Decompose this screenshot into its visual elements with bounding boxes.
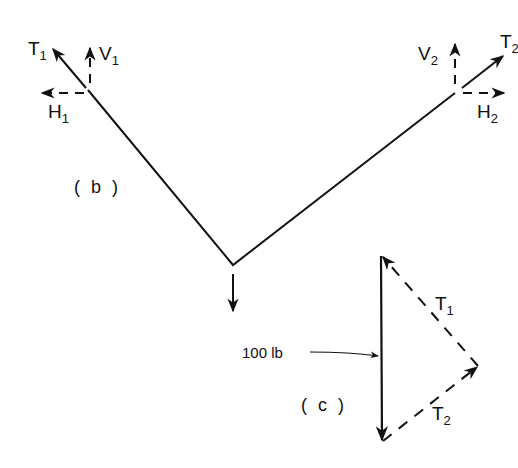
weight-leader-line xyxy=(310,352,378,356)
t1-arrow xyxy=(53,49,86,88)
weight-label: 100 lb xyxy=(242,344,283,361)
h1-label: H1 xyxy=(48,101,69,126)
t2-vector xyxy=(383,367,477,441)
panel-b-label: ( b ) xyxy=(74,177,121,197)
panel-c-label: ( c ) xyxy=(301,395,347,415)
panel-c: 100 lb T1 T2 ( c ) xyxy=(242,256,478,441)
h2-label: H2 xyxy=(477,101,498,126)
force-diagram: T1 V1 H1 V2 T2 H2 ( b ) 100 lb xyxy=(0,0,518,468)
t1-label: T1 xyxy=(28,38,47,63)
t2-label: T2 xyxy=(500,31,518,56)
cable xyxy=(88,90,455,265)
v1-label: V1 xyxy=(99,43,119,68)
t2-triangle-label: T2 xyxy=(432,403,451,428)
panel-b: T1 V1 H1 V2 T2 H2 ( b ) xyxy=(28,31,518,311)
t1-vector xyxy=(383,257,478,366)
t1-triangle-label: T1 xyxy=(435,293,454,318)
v2-label: V2 xyxy=(418,43,438,68)
weight-vector xyxy=(381,256,382,440)
t2-arrow xyxy=(462,56,503,88)
